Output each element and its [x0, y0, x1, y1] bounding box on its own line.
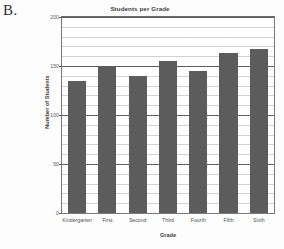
bar — [68, 81, 86, 213]
minor-gridline — [62, 27, 274, 28]
x-axis-title: Grade — [61, 232, 275, 238]
x-axis-tick-label: Fifth — [224, 217, 234, 223]
bar — [98, 66, 116, 213]
figure-panel-label: B. — [3, 2, 18, 19]
x-axis-tick-label: First — [102, 217, 112, 223]
bar — [129, 76, 147, 213]
figure-panel: B. Students per Grade 050100150200Kinder… — [0, 0, 284, 249]
y-axis-tick-mark — [59, 213, 62, 214]
plot-area: 050100150200KindergartenFirstSecondThird… — [61, 16, 275, 214]
bar — [250, 49, 268, 213]
y-axis-tick-mark — [59, 164, 62, 165]
x-axis-tick-label: Sixth — [253, 217, 265, 223]
y-axis-tick-mark — [59, 17, 62, 18]
minor-gridline — [62, 46, 274, 47]
y-axis-tick-label: 0 — [56, 210, 59, 216]
y-axis-title: Number of Students — [44, 50, 50, 154]
x-axis-tick-label: Kindergarten — [62, 217, 92, 223]
minor-gridline — [62, 37, 274, 38]
y-axis-tick-mark — [59, 115, 62, 116]
y-axis-tick-label: 50 — [53, 161, 59, 167]
bar-chart: Students per Grade 050100150200Kindergar… — [34, 4, 280, 249]
y-axis-tick-label: 200 — [50, 14, 59, 20]
x-axis-tick-label: Third — [162, 217, 174, 223]
y-axis-tick-mark — [59, 66, 62, 67]
chart-title: Students per Grade — [34, 5, 246, 12]
y-axis-tick-label: 100 — [50, 112, 59, 118]
x-axis-tick-label: Fourth — [191, 217, 206, 223]
bar — [159, 61, 177, 213]
major-gridline — [62, 17, 274, 18]
minor-gridline — [62, 56, 274, 57]
bar — [189, 71, 207, 213]
bar — [219, 53, 237, 213]
x-axis-tick-label: Second — [129, 217, 147, 223]
y-axis-tick-label: 150 — [50, 63, 59, 69]
